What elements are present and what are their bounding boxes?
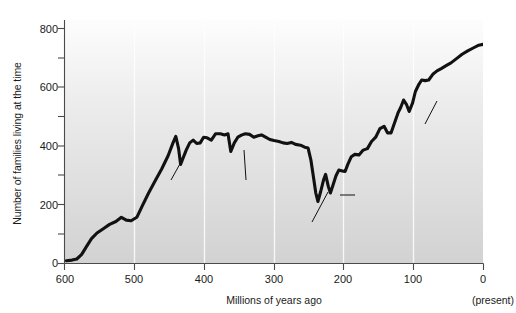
plot-area — [0, 0, 516, 313]
x-axis-ticks — [65, 264, 484, 271]
biodiversity-chart-figure: Number of families living at the time 0 … — [0, 0, 516, 313]
y-axis-ticks — [58, 29, 65, 264]
